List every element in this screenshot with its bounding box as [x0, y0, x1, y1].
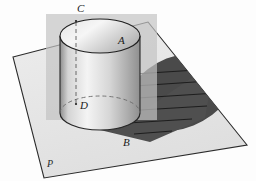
geometry-diagram: A B C D P	[0, 0, 256, 181]
label-D: D	[79, 99, 88, 111]
point-C-marker	[75, 20, 77, 22]
label-A: A	[117, 34, 125, 46]
label-C: C	[77, 2, 85, 14]
point-D-marker	[75, 103, 77, 105]
label-P: P	[46, 158, 53, 169]
cylinder-top-face	[60, 19, 140, 53]
scene-canvas: A B C D P	[0, 0, 256, 181]
label-B: B	[123, 136, 130, 148]
